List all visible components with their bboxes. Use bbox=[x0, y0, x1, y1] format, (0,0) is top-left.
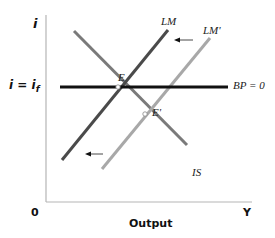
diagram-canvas bbox=[0, 0, 275, 238]
shift-arrow-top-icon bbox=[174, 38, 193, 43]
point-e-marker bbox=[116, 85, 120, 89]
i-level-subscript: f bbox=[36, 84, 40, 94]
i-level-text: i = i bbox=[9, 78, 36, 92]
bp-label: BP = 0 bbox=[233, 79, 265, 91]
lm-curve bbox=[62, 30, 168, 160]
origin-label: 0 bbox=[31, 206, 39, 219]
lm-prime-label: LM' bbox=[203, 24, 221, 36]
lm-label: LM bbox=[161, 15, 176, 27]
islm-bp-diagram: i i = if 0 Y Output LM LM' BP = 0 IS E E… bbox=[0, 0, 275, 238]
point-e-prime-label: E' bbox=[152, 106, 161, 118]
y-axis-label: i bbox=[33, 16, 37, 31]
shift-arrow-bottom-icon bbox=[85, 152, 103, 157]
point-e-prime-marker bbox=[143, 112, 147, 116]
i-level-label: i = if bbox=[9, 78, 40, 94]
x-axis-label: Output bbox=[129, 217, 172, 230]
point-e-label: E bbox=[118, 71, 125, 83]
lm-prime-curve bbox=[102, 38, 210, 169]
x-axis-end-label: Y bbox=[243, 206, 251, 219]
is-label: IS bbox=[192, 166, 201, 178]
